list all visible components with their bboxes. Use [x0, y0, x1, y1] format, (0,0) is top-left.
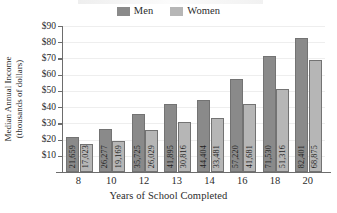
bar-women: 30,816 [178, 122, 191, 172]
bar-value-label: 51,316 [279, 145, 287, 168]
legend-label-women: Women [187, 6, 220, 16]
bar-women: 41,681 [243, 104, 256, 172]
bar-men: 35,725 [132, 114, 145, 172]
bar-value-label: 68,875 [311, 145, 319, 168]
bar-value-label: 35,725 [134, 145, 142, 168]
bar-group: 26,27719,169 [99, 26, 126, 172]
bar-value-label: 44,404 [200, 145, 208, 168]
y-axis-tick-label: $80 [2, 38, 56, 48]
bar-chart: Men Women Median Annual Income (thousand… [0, 0, 337, 213]
bar-value-label: 82,401 [298, 145, 306, 168]
y-axis-tick-label: $30 [2, 119, 56, 129]
x-axis-title: Years of School Completed [0, 190, 337, 202]
y-axis-tick-label: $40 [2, 103, 56, 113]
x-axis-tick-label: 10 [94, 175, 128, 187]
bar-men: 71,530 [263, 56, 276, 172]
bar-group: 41,89530,816 [164, 26, 191, 172]
x-axis-tick-label: 20 [291, 175, 325, 187]
bar-women: 17,023 [80, 144, 93, 172]
y-axis-tick-label: $60 [2, 70, 56, 80]
bar-value-label: 41,681 [246, 145, 254, 168]
legend-swatch-men-icon [117, 7, 130, 16]
bar-women: 68,875 [309, 60, 322, 172]
x-axis-tick-label: 13 [160, 175, 194, 187]
y-axis-tick-labels: $10$20$30$40$50$60$70$80$90 [0, 26, 56, 172]
bar-value-label: 17,023 [82, 145, 90, 168]
bar-men: 82,401 [295, 38, 308, 172]
x-axis-tick-label: 16 [225, 175, 259, 187]
bar-value-label: 19,169 [115, 145, 123, 168]
chart-legend: Men Women [0, 6, 337, 16]
bar-women: 26,029 [145, 130, 158, 172]
bar-value-label: 21,659 [69, 145, 77, 168]
bar-value-label: 33,481 [213, 145, 221, 168]
bar-groups: 21,65917,02326,27719,16935,72526,02941,8… [62, 26, 324, 172]
bar-men: 41,895 [164, 104, 177, 172]
bar-group: 57,22041,681 [230, 26, 257, 172]
bar-women: 33,481 [211, 118, 224, 172]
bar-group: 44,40433,481 [197, 26, 224, 172]
bar-men: 26,277 [99, 129, 112, 172]
x-axis-tick-label: 14 [192, 175, 226, 187]
x-axis-tick-label: 12 [127, 175, 161, 187]
bar-value-label: 30,816 [180, 145, 188, 168]
bar-men: 57,220 [230, 79, 243, 172]
x-axis-tick-labels: 810121314161820 [62, 175, 324, 189]
bar-group: 82,40168,875 [295, 26, 322, 172]
bar-value-label: 26,277 [101, 145, 109, 168]
legend-entry-women: Women [170, 6, 220, 16]
y-axis-tick-label: $20 [2, 135, 56, 145]
bar-group: 71,53051,316 [263, 26, 290, 172]
legend-entry-men: Men [117, 6, 154, 16]
y-axis-tick-label: $70 [2, 54, 56, 64]
y-axis-tick-label: $10 [2, 151, 56, 161]
y-axis-tick-label: $90 [2, 22, 56, 32]
bar-group: 21,65917,023 [66, 26, 93, 172]
bar-women: 51,316 [276, 89, 289, 172]
bar-group: 35,72526,029 [132, 26, 159, 172]
bar-value-label: 41,895 [167, 145, 175, 168]
bar-men: 21,659 [66, 137, 79, 172]
top-edge-artifact [78, 0, 263, 4]
bar-value-label: 26,029 [148, 145, 156, 168]
y-axis-tick-label: $50 [2, 86, 56, 96]
legend-swatch-women-icon [170, 7, 183, 16]
x-axis-tick-label: 18 [258, 175, 292, 187]
bar-value-label: 57,220 [232, 145, 240, 168]
bar-value-label: 71,530 [265, 145, 273, 168]
bar-men: 44,404 [197, 100, 210, 172]
x-axis-tick-label: 8 [61, 175, 95, 187]
legend-label-men: Men [134, 6, 154, 16]
bar-women: 19,169 [112, 141, 125, 172]
